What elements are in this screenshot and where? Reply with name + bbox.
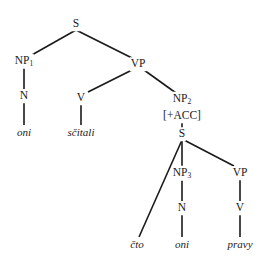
leaf-cto: čto bbox=[129, 238, 144, 251]
node-subscript: 2 bbox=[187, 97, 191, 106]
node-v1: V bbox=[76, 91, 86, 105]
node-vp2: VP bbox=[232, 166, 249, 180]
leaf-text: oni bbox=[175, 238, 189, 250]
node-v2: V bbox=[235, 201, 245, 215]
leaf-pravy: pravy bbox=[226, 238, 253, 251]
tree-edge bbox=[76, 30, 132, 58]
node-label-text: S bbox=[73, 17, 79, 29]
tree-edge bbox=[144, 70, 176, 93]
node-subscript: 1 bbox=[29, 59, 33, 68]
node-n1: N bbox=[19, 89, 29, 103]
node-label-text: N bbox=[20, 89, 28, 101]
node-label-text: V bbox=[77, 91, 85, 103]
node-label-text: NP bbox=[173, 92, 188, 104]
node-np3: NP3 bbox=[172, 166, 192, 181]
node-label-text: VP bbox=[131, 57, 146, 69]
node-n3: N bbox=[177, 201, 187, 215]
tree-edge bbox=[184, 140, 234, 166]
node-label-text: S bbox=[179, 127, 185, 139]
tree-edge bbox=[30, 30, 76, 56]
node-label-text: NP bbox=[173, 166, 188, 178]
node-vp1: VP bbox=[130, 57, 147, 71]
node-label-text: V bbox=[236, 201, 244, 213]
node-label-text: N bbox=[178, 201, 186, 213]
leaf-oni-2: oni bbox=[174, 238, 190, 251]
node-label-text: NP bbox=[15, 54, 30, 66]
node-np1: NP1 bbox=[14, 54, 34, 69]
node-label-text: VP bbox=[233, 166, 248, 178]
leaf-text: oni bbox=[17, 126, 31, 138]
feature-acc: [+ACC] bbox=[162, 109, 202, 123]
leaf-oni-1: oni bbox=[16, 126, 32, 139]
node-np2: NP2 bbox=[172, 92, 192, 107]
leaf-text: čto bbox=[130, 238, 143, 250]
feature-text: [+ACC] bbox=[163, 109, 201, 121]
leaf-text: sčitali bbox=[68, 126, 95, 138]
syntax-tree-edges bbox=[0, 0, 264, 268]
leaf-scitali: sčitali bbox=[67, 126, 96, 139]
node-s-embedded: S bbox=[178, 127, 186, 141]
node-subscript: 3 bbox=[187, 171, 191, 180]
node-s-root: S bbox=[72, 17, 80, 31]
leaf-text: pravy bbox=[227, 238, 252, 250]
tree-edge bbox=[139, 140, 182, 237]
tree-edge bbox=[88, 70, 132, 92]
